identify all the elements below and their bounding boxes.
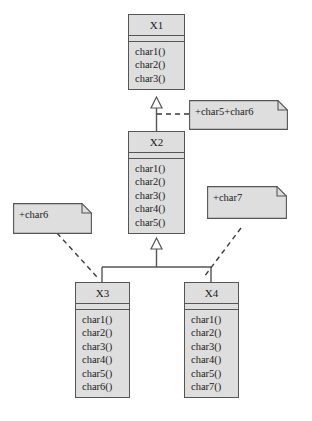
operation: char3() [135, 189, 184, 202]
operation: char2() [135, 58, 184, 71]
operation: char6() [82, 380, 129, 393]
uml-class-x4[interactable]: X4 char1() char2() char3() char4() char5… [184, 282, 239, 398]
operation: char1() [191, 313, 238, 326]
operation: char1() [82, 313, 129, 326]
operation: char4() [135, 202, 184, 215]
operation: char2() [191, 326, 238, 339]
note-text: +char5+char6 [195, 105, 253, 118]
operation: char4() [191, 353, 238, 366]
operation: char4() [82, 353, 129, 366]
uml-class-diagram-canvas: X1 char1() char2() char3() X2 char1() ch… [0, 0, 312, 421]
class-name-x4: X4 [185, 283, 238, 304]
uml-note-char7[interactable]: +char7 [207, 186, 287, 219]
note-link-char6 [57, 233, 97, 277]
operation: char5() [135, 216, 184, 229]
class-operations-x1: char1() char2() char3() [129, 42, 184, 89]
note-link-char7 [204, 228, 241, 277]
generalization-arrow-x3x4-x2 [151, 238, 162, 249]
operation: char1() [135, 45, 184, 58]
operation: char2() [82, 326, 129, 339]
operation: char5() [82, 367, 129, 380]
uml-class-x3[interactable]: X3 char1() char2() char3() char4() char5… [75, 282, 130, 398]
class-name-x3: X3 [76, 283, 129, 304]
uml-class-x1[interactable]: X1 char1() char2() char3() [128, 14, 185, 90]
operation: char3() [135, 72, 184, 85]
class-operations-x3: char1() char2() char3() char4() char5() … [76, 310, 129, 397]
class-operations-x2: char1() char2() char3() char4() char5() [129, 159, 184, 233]
operation: char3() [82, 340, 129, 353]
generalization-arrow-x2-x1 [151, 97, 162, 108]
operation: char7() [191, 380, 238, 393]
operation: char5() [191, 367, 238, 380]
uml-note-char5-char6[interactable]: +char5+char6 [189, 100, 288, 130]
class-operations-x4: char1() char2() char3() char4() char5() … [185, 310, 238, 397]
class-name-x1: X1 [129, 15, 184, 36]
note-text: +char7 [213, 191, 242, 204]
note-text: +char6 [19, 208, 48, 221]
uml-class-x2[interactable]: X2 char1() char2() char3() char4() char5… [128, 131, 185, 234]
operation: char2() [135, 175, 184, 188]
uml-note-char6[interactable]: +char6 [13, 203, 92, 234]
class-name-x2: X2 [129, 132, 184, 153]
operation: char3() [191, 340, 238, 353]
operation: char1() [135, 162, 184, 175]
